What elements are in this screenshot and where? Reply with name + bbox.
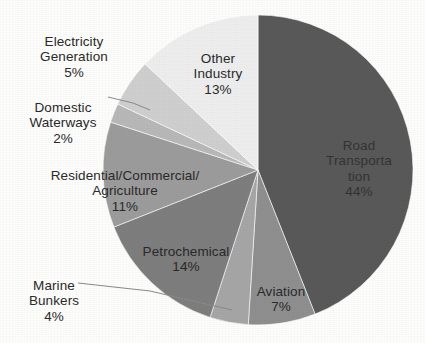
pie-label-domestic-waterways: Domestic Waterways 2% bbox=[2, 84, 124, 162]
pie-label-marine-bunkers-value: 4% bbox=[0, 309, 108, 325]
pie-label-marine-bunkers-name: Marine Bunkers bbox=[29, 278, 79, 309]
pie-label-petrochemical-name: Petrochemical bbox=[143, 244, 230, 259]
pie-label-other-industry-value: 13% bbox=[172, 82, 264, 98]
pie-label-other-industry-name: Other Industry bbox=[194, 51, 243, 82]
pie-label-petrochemical-value: 14% bbox=[112, 259, 260, 275]
pie-label-marine-bunkers: Marine Bunkers 4% bbox=[0, 262, 108, 340]
pie-label-road-transportation: Road Transporta tion 44% bbox=[320, 122, 398, 215]
pie-chart: Electricity Generation 5% Domestic Water… bbox=[0, 0, 425, 343]
pie-label-domestic-waterways-value: 2% bbox=[2, 131, 124, 147]
pie-label-road-transportation-name: Road Transporta tion bbox=[326, 138, 392, 184]
pie-label-other-industry: Other Industry 13% bbox=[172, 35, 264, 113]
pie-label-electricity-generation-value: 5% bbox=[8, 65, 140, 81]
pie-label-aviation-name: Aviation bbox=[257, 284, 306, 299]
pie-label-aviation: Aviation 7% bbox=[240, 268, 322, 330]
pie-label-residential-commercial-agriculture: Residential/Commercial/ Agriculture 11% bbox=[16, 152, 234, 230]
pie-label-residential-commercial-agriculture-value: 11% bbox=[16, 199, 234, 215]
pie-label-residential-commercial-agriculture-name: Residential/Commercial/ Agriculture bbox=[51, 168, 200, 199]
pie-label-electricity-generation-name: Electricity Generation bbox=[40, 34, 108, 65]
pie-label-domestic-waterways-name: Domestic Waterways bbox=[29, 100, 96, 131]
pie-label-road-transportation-value: 44% bbox=[320, 184, 398, 200]
pie-label-aviation-value: 7% bbox=[240, 299, 322, 315]
pie-label-petrochemical: Petrochemical 14% bbox=[112, 228, 260, 290]
